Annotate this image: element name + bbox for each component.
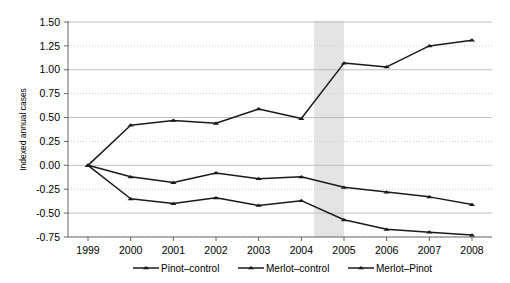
line-chart: 1.501.251.000.750.500.250.00-0.25-0.50-0… [0,0,510,283]
y-tick-label: 1.00 [40,63,61,75]
x-tick-label: 1999 [76,244,100,256]
x-tick-label: 2006 [375,244,399,256]
x-tick-label: 2000 [119,244,143,256]
legend-item-merlot-control[interactable]: Merlot–control [238,263,329,274]
y-tick-label: 1.50 [40,16,61,28]
y-tick-label: 0.25 [40,135,61,147]
chart-container: 1.501.251.000.750.500.250.00-0.25-0.50-0… [0,0,510,283]
legend-label: Merlot–control [266,263,329,274]
legend-item-pinot-control[interactable]: Pinot–control [133,263,219,274]
legend-item-merlot-pinot[interactable]: Merlot–Pinot [348,263,432,274]
x-tick-label: 2008 [460,244,484,256]
x-tick-label: 2005 [332,244,356,256]
legend-label: Merlot–Pinot [376,263,432,274]
legend-label: Pinot–control [161,263,219,274]
y-tick-label: -0.75 [36,231,60,243]
shaded-period-band-rect [314,21,344,237]
y-axis [64,21,68,237]
plot-background [68,21,492,237]
y-tick-label: -0.50 [36,207,60,219]
x-tick-label: 2003 [247,244,271,256]
x-tick-labels: 1999200020012002200320042005200620072008 [76,244,484,256]
x-tick-label: 2001 [162,244,186,256]
chart-legend: Pinot–controlMerlot–controlMerlot–Pinot [133,263,432,274]
y-tick-labels: 1.501.251.000.750.500.250.00-0.25-0.50-0… [36,16,60,243]
shaded-period-band [314,21,344,237]
y-tick-label: 0.75 [40,87,61,99]
x-tick-label: 2002 [204,244,228,256]
x-tick-label: 2007 [418,244,442,256]
plot-area [68,21,492,237]
y-axis-title: Indexed annual cases [18,88,28,171]
y-tick-label: 0.50 [40,111,61,123]
y-axis-title-text: Indexed annual cases [18,88,28,171]
y-tick-label: 1.25 [40,40,61,52]
y-tick-label: 0.00 [40,159,61,171]
x-tick-label: 2004 [290,244,314,256]
x-axis [68,237,492,241]
y-tick-label: -0.25 [36,183,60,195]
